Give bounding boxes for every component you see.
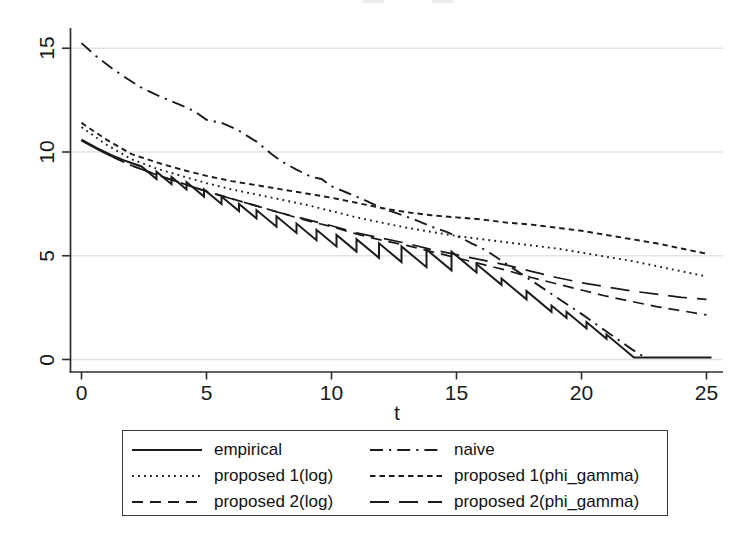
legend-label-naive: naive [454, 440, 495, 460]
legend-swatch-proposed-1-phi-gamma-line [369, 471, 443, 481]
y-tick-label-5: 5 [32, 241, 62, 271]
legend-swatch-proposed-2-log-line [131, 497, 203, 507]
legend: empiricalnaiveproposed 1(log)proposed 1(… [122, 430, 668, 516]
x-axis-title: t [377, 401, 417, 425]
x-tick-label-25: 25 [687, 383, 727, 403]
y-tick-label-10: 10 [32, 137, 62, 167]
series-proposed-1-log-line [82, 127, 707, 276]
y-tick-label-15: 15 [32, 33, 62, 63]
legend-item-proposed-2-log: proposed 2(log) [131, 489, 333, 515]
legend-label-proposed-2-phi-gamma: proposed 2(phi_gamma) [454, 492, 639, 512]
x-tick-label-10: 10 [312, 383, 352, 403]
series-proposed-1-phi-gamma-line [82, 123, 707, 254]
x-tick-label-5: 5 [187, 383, 227, 403]
legend-label-empirical: empirical [214, 440, 282, 460]
legend-swatch-empirical-line [131, 445, 203, 455]
legend-swatch-proposed-2-phi-gamma-line [369, 497, 443, 507]
figure: 0510152025051015 t empiricalnaivepropose… [0, 0, 755, 546]
legend-item-naive: naive [369, 437, 495, 463]
legend-swatch-naive-line [369, 445, 443, 455]
legend-item-proposed-1-phi-gamma: proposed 1(phi_gamma) [369, 463, 639, 489]
y-tick-label-0: 0 [32, 345, 62, 375]
series-naive-line [82, 43, 647, 358]
plot-area [0, 0, 755, 428]
legend-label-proposed-1-phi-gamma: proposed 1(phi_gamma) [454, 466, 639, 486]
x-tick-label-0: 0 [62, 383, 102, 403]
legend-swatch-proposed-1-log-line [131, 471, 203, 481]
legend-item-proposed-2-phi-gamma: proposed 2(phi_gamma) [369, 489, 639, 515]
legend-label-proposed-1-log: proposed 1(log) [214, 466, 333, 486]
legend-item-proposed-1-log: proposed 1(log) [131, 463, 333, 489]
x-tick-label-15: 15 [437, 383, 477, 403]
x-tick-label-20: 20 [562, 383, 602, 403]
legend-label-proposed-2-log: proposed 2(log) [214, 492, 333, 512]
series-proposed-2-phi-gamma-line [82, 141, 707, 300]
series-empirical-line [82, 140, 712, 358]
legend-item-empirical: empirical [131, 437, 282, 463]
